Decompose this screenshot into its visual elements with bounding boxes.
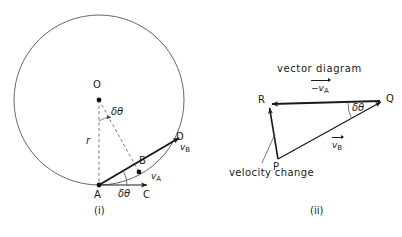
point-dot-O [97, 98, 102, 103]
point-label-C: C [143, 190, 150, 200]
vector-vB-PQ [278, 102, 381, 159]
vector-label-minus-vA: −vA [311, 84, 329, 95]
point-dot-A [97, 183, 102, 188]
vertex-label-Q: Q [386, 94, 394, 104]
vector-label-vB-sub: B [337, 144, 342, 152]
radius-label-r: r [86, 136, 90, 146]
angle-label-delta-theta-at-O: δθ [111, 107, 123, 117]
angle-label-delta-theta-at-A: δθ [118, 189, 130, 199]
vertex-label-R: R [258, 95, 265, 105]
velocity-label-vB: vB [180, 143, 190, 154]
annotation-leader-line [262, 134, 275, 163]
panel-i-caption: (i) [94, 206, 105, 216]
vector-label-vB: vB [332, 141, 342, 152]
physics-figure-centripetal-acceleration: O A B C D r δθ δθ vA vB (i) vector diagr… [0, 0, 402, 237]
vector-velocity-change-PR [270, 108, 278, 159]
angle-arc-at-A [124, 171, 127, 185]
figure-vector-graphics [0, 0, 402, 237]
vector-label-minus-vA-prefix: − [311, 83, 319, 93]
panel-ii-caption: (ii) [310, 206, 323, 216]
point-label-A: A [94, 190, 101, 200]
vector-diagram-title: vector diagram [277, 64, 362, 74]
point-label-B: B [139, 156, 146, 166]
angle-arc-at-O [99, 117, 111, 121]
vector-label-minus-vA-sub: A [324, 87, 329, 95]
point-label-O: O [93, 80, 101, 90]
velocity-label-vA-sub: A [156, 175, 161, 183]
angle-arc-at-Q [348, 102, 351, 118]
velocity-label-vB-sub: B [185, 146, 190, 154]
point-label-D: D [176, 132, 184, 142]
panel-i-group [14, 15, 184, 187]
velocity-change-annotation: velocity change [229, 168, 314, 178]
point-dot-B [137, 170, 142, 175]
angle-label-delta-theta-at-Q: δθ [352, 103, 364, 113]
velocity-label-vA: vA [151, 172, 161, 183]
